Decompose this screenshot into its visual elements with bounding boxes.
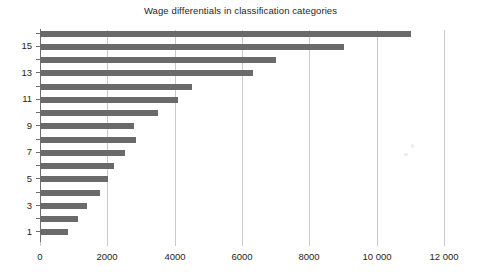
y-axis-label-13: 13 bbox=[0, 68, 32, 78]
plot-area bbox=[40, 30, 444, 242]
y-tick bbox=[36, 139, 41, 140]
y-tick bbox=[36, 165, 41, 166]
x-axis-label-2000: 2000 bbox=[77, 251, 137, 262]
y-tick bbox=[36, 59, 41, 60]
y-tick bbox=[36, 192, 41, 193]
bar-6 bbox=[40, 163, 114, 169]
y-tick bbox=[36, 218, 41, 219]
y-axis-label-15: 15 bbox=[0, 41, 32, 51]
y-axis-label-5: 5 bbox=[0, 174, 32, 184]
bar-2 bbox=[40, 216, 78, 222]
bar-15 bbox=[40, 44, 344, 50]
y-tick bbox=[36, 178, 41, 179]
y-axis-label-1: 1 bbox=[0, 227, 32, 237]
y-axis-label-7: 7 bbox=[0, 147, 32, 157]
x-axis-label-10000: 10 000 bbox=[347, 251, 407, 262]
y-tick bbox=[36, 33, 41, 34]
y-tick bbox=[36, 112, 41, 113]
x-axis-label-12000: 12 000 bbox=[414, 251, 474, 262]
x-axis-label-0: 0 bbox=[10, 251, 70, 262]
bar-4 bbox=[40, 190, 100, 196]
bar-9 bbox=[40, 123, 134, 129]
chart-title: Wage differentials in classification cat… bbox=[0, 5, 481, 16]
bar-14 bbox=[40, 57, 276, 63]
y-tick bbox=[36, 125, 41, 126]
x-tick bbox=[309, 242, 310, 246]
bar-chart: Wage differentials in classification cat… bbox=[0, 0, 481, 277]
bar-7 bbox=[40, 150, 125, 156]
y-axis-label-11: 11 bbox=[0, 94, 32, 104]
bar-10 bbox=[40, 110, 158, 116]
bar-11 bbox=[40, 97, 178, 103]
y-axis-label-9: 9 bbox=[0, 121, 32, 131]
x-tick bbox=[107, 242, 108, 246]
x-tick bbox=[242, 242, 243, 246]
y-tick bbox=[36, 99, 41, 100]
gridline-12000 bbox=[444, 30, 445, 242]
bar-1 bbox=[40, 229, 68, 235]
y-tick bbox=[36, 205, 41, 206]
y-tick bbox=[36, 152, 41, 153]
bar-12 bbox=[40, 84, 192, 90]
x-tick bbox=[40, 242, 41, 246]
y-tick bbox=[36, 86, 41, 87]
x-tick bbox=[175, 242, 176, 246]
bar-8 bbox=[40, 137, 136, 143]
y-tick bbox=[36, 231, 41, 232]
bar-16 bbox=[40, 31, 411, 37]
x-axis-label-6000: 6000 bbox=[212, 251, 272, 262]
gridline-8000 bbox=[309, 30, 310, 242]
x-tick bbox=[377, 242, 378, 246]
bar-3 bbox=[40, 203, 87, 209]
bar-5 bbox=[40, 176, 108, 182]
x-tick bbox=[444, 242, 445, 246]
x-axis-label-8000: 8000 bbox=[279, 251, 339, 262]
bar-13 bbox=[40, 70, 253, 76]
y-tick bbox=[36, 72, 41, 73]
gridline-10000 bbox=[377, 30, 378, 242]
y-tick bbox=[36, 46, 41, 47]
x-axis-label-4000: 4000 bbox=[145, 251, 205, 262]
y-axis-label-3: 3 bbox=[0, 201, 32, 211]
